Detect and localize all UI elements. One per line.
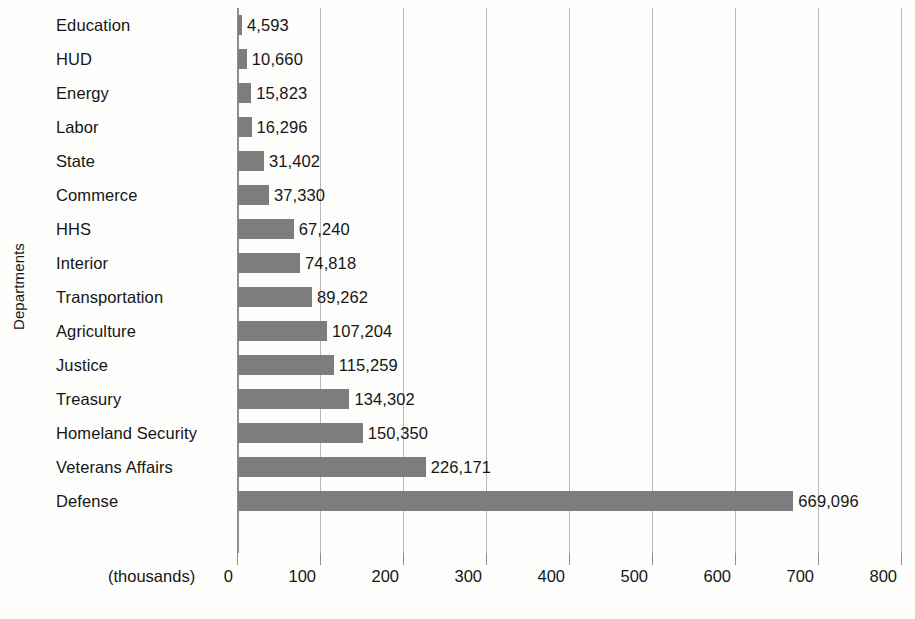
category-label: Education <box>56 8 130 42</box>
x-tick-mark <box>403 553 404 565</box>
x-tick-label: 400 <box>525 567 565 586</box>
x-tick-mark <box>486 553 487 565</box>
category-label: Interior <box>56 246 108 280</box>
category-label: Energy <box>56 76 109 110</box>
bar <box>238 253 300 273</box>
bar <box>238 15 242 35</box>
bar-row: Interior74,818 <box>0 246 915 280</box>
bar <box>238 321 327 341</box>
bar-row: Energy15,823 <box>0 76 915 110</box>
x-tick-mark <box>818 553 819 565</box>
x-tick-label: 500 <box>608 567 648 586</box>
bar-row: Defense669,096 <box>0 484 915 518</box>
bar <box>238 423 363 443</box>
bar-row: Justice115,259 <box>0 348 915 382</box>
bar-value-label: 67,240 <box>299 212 350 246</box>
bar <box>238 355 334 375</box>
x-tick-mark <box>652 553 653 565</box>
bar-row: Commerce37,330 <box>0 178 915 212</box>
bar-value-label: 15,823 <box>256 76 307 110</box>
category-label: Transportation <box>56 280 163 314</box>
x-axis-units-label: (thousands) <box>108 567 195 586</box>
bar-chart: Departments Education4,593HUD10,660Energ… <box>0 0 915 619</box>
x-tick-label: 300 <box>442 567 482 586</box>
bar-value-label: 89,262 <box>317 280 368 314</box>
category-label: Commerce <box>56 178 137 212</box>
bar-value-label: 115,259 <box>339 348 398 382</box>
bar-value-label: 31,402 <box>269 144 320 178</box>
category-label: Veterans Affairs <box>56 450 173 484</box>
x-tick-label: 700 <box>774 567 814 586</box>
bar <box>238 49 247 69</box>
category-label: Treasury <box>56 382 121 416</box>
bar-value-label: 134,302 <box>354 382 414 416</box>
category-label: Homeland Security <box>56 416 197 450</box>
category-label: Agriculture <box>56 314 136 348</box>
x-tick-mark <box>237 553 238 565</box>
category-label: State <box>56 144 95 178</box>
bar-row: HUD10,660 <box>0 42 915 76</box>
bar <box>238 457 426 477</box>
x-tick-label: 0 <box>193 567 233 586</box>
x-tick-mark <box>320 553 321 565</box>
bar-row: Agriculture107,204 <box>0 314 915 348</box>
x-tick-mark <box>735 553 736 565</box>
x-tick-label: 600 <box>691 567 731 586</box>
x-tick-label: 200 <box>359 567 399 586</box>
bar <box>238 389 349 409</box>
bar-value-label: 226,171 <box>431 450 491 484</box>
bar-rows: Education4,593HUD10,660Energy15,823Labor… <box>0 0 915 553</box>
bar <box>238 83 251 103</box>
bar-value-label: 107,204 <box>332 314 392 348</box>
bar-row: Labor16,296 <box>0 110 915 144</box>
bar-row: Homeland Security150,350 <box>0 416 915 450</box>
x-tick-label: 800 <box>857 567 897 586</box>
bar-row: Transportation89,262 <box>0 280 915 314</box>
bar <box>238 117 252 137</box>
x-tick-mark <box>569 553 570 565</box>
category-label: Justice <box>56 348 108 382</box>
bar <box>238 151 264 171</box>
bar-value-label: 10,660 <box>252 42 303 76</box>
x-tick-mark <box>901 553 902 565</box>
bar <box>238 491 793 511</box>
bar-row: Veterans Affairs226,171 <box>0 450 915 484</box>
bar-row: Education4,593 <box>0 8 915 42</box>
bar-value-label: 37,330 <box>274 178 325 212</box>
category-label: HUD <box>56 42 92 76</box>
bar-value-label: 4,593 <box>247 8 289 42</box>
bar-row: Treasury134,302 <box>0 382 915 416</box>
bar-value-label: 150,350 <box>368 416 428 450</box>
category-label: Defense <box>56 484 118 518</box>
bar-value-label: 16,296 <box>257 110 308 144</box>
category-label: HHS <box>56 212 91 246</box>
bar <box>238 219 294 239</box>
bar <box>238 185 269 205</box>
bar <box>238 287 312 307</box>
category-label: Labor <box>56 110 99 144</box>
x-tick-label: 100 <box>276 567 316 586</box>
bar-row: HHS67,240 <box>0 212 915 246</box>
bar-value-label: 669,096 <box>798 484 858 518</box>
bar-value-label: 74,818 <box>305 246 356 280</box>
bar-row: State31,402 <box>0 144 915 178</box>
